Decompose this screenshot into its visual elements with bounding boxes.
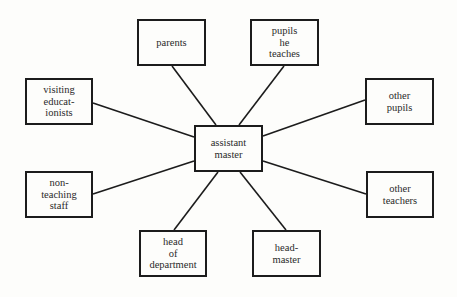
node-label-line: master xyxy=(273,254,301,266)
node-label-line: staff xyxy=(50,200,68,212)
node-label-line: teaches xyxy=(269,48,300,60)
edge-head-of-department xyxy=(174,172,218,230)
node-label-line: assistant xyxy=(211,137,247,149)
node-label-line: parents xyxy=(156,37,186,49)
edge-other-teachers xyxy=(263,161,366,194)
node-label-line: educat- xyxy=(44,96,75,108)
node-label-line: pupils xyxy=(272,25,298,37)
node-label-line: other xyxy=(389,90,411,102)
node-label-line: teaching xyxy=(41,189,77,201)
edge-pupils-he-teaches xyxy=(239,66,284,125)
node-label-line: head xyxy=(163,236,183,248)
node-non-teaching-staff: non- teaching staff xyxy=(25,171,93,218)
node-visiting-educationists: visiting educat- ionists xyxy=(25,78,93,125)
edge-other-pupils xyxy=(263,100,365,136)
edge-parents xyxy=(172,66,216,125)
node-label-line: other xyxy=(389,183,411,195)
node-pupils-he-teaches: pupils he teaches xyxy=(250,19,319,66)
edge-head-master xyxy=(240,172,286,230)
node-label-line: head- xyxy=(275,242,298,254)
node-label-line: department xyxy=(149,259,196,271)
role-relationship-diagram: assistant master parents pupils he teach… xyxy=(0,0,457,297)
node-label-line: of xyxy=(169,248,178,260)
node-other-pupils: other pupils xyxy=(365,78,434,125)
node-label-line: pupils xyxy=(387,102,413,114)
node-label-line: teachers xyxy=(383,195,417,207)
node-other-teachers: other teachers xyxy=(366,171,434,218)
node-assistant-master: assistant master xyxy=(194,125,263,172)
node-label-line: he xyxy=(280,37,290,49)
node-label-line: non- xyxy=(49,177,68,189)
node-label-line: master xyxy=(215,149,243,161)
node-label-line: visiting xyxy=(43,84,75,96)
edge-non-teaching-staff xyxy=(93,161,194,194)
node-head-of-department: head of department xyxy=(139,230,207,277)
node-head-master: head- master xyxy=(252,230,321,277)
edge-visiting-educationists xyxy=(93,103,194,137)
node-label-line: ionists xyxy=(45,107,72,119)
node-parents: parents xyxy=(137,19,206,66)
